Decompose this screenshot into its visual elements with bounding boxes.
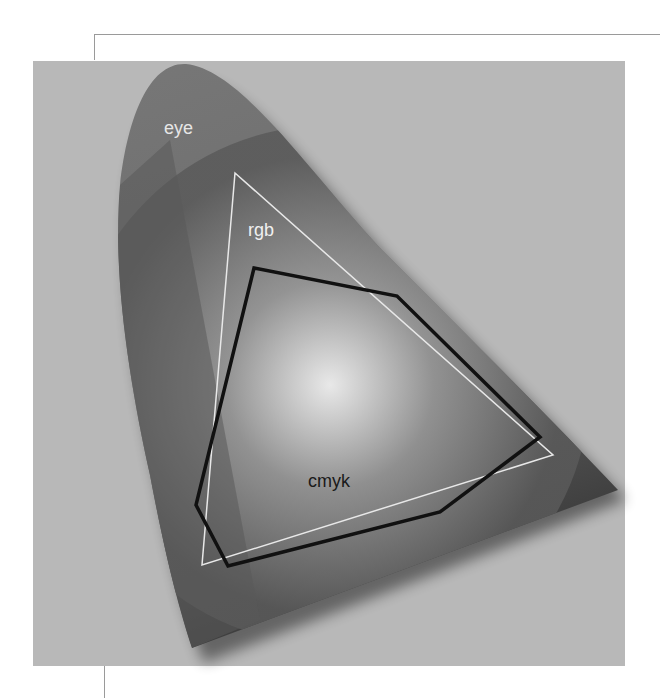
rgb-label: rgb (248, 220, 274, 241)
gamut-diagram (0, 0, 660, 698)
cmyk-label: cmyk (308, 471, 350, 492)
eye-label: eye (164, 118, 193, 139)
